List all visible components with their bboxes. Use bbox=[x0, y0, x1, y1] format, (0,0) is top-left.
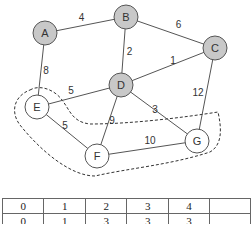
edge-d-c bbox=[121, 48, 215, 85]
graph-diagram: 4682153129510 ABCDEFG bbox=[0, 0, 251, 195]
table-cell bbox=[210, 199, 251, 214]
table-cell: 0 bbox=[3, 214, 44, 225]
edge-weight-label: 8 bbox=[43, 65, 49, 76]
table-cell: 3 bbox=[127, 199, 168, 214]
node-g: G bbox=[185, 129, 209, 153]
node-label: A bbox=[41, 27, 49, 39]
node-label: C bbox=[211, 42, 219, 54]
edge-weight-label: 2 bbox=[127, 46, 133, 57]
node-label: G bbox=[193, 135, 202, 147]
edge-weight-label: 12 bbox=[192, 87, 204, 98]
node-e: E bbox=[25, 95, 49, 119]
table-cell bbox=[210, 214, 251, 225]
node-a: A bbox=[33, 21, 57, 45]
node-label: B bbox=[122, 11, 129, 23]
table-cell: 3 bbox=[168, 214, 209, 225]
edge-b-c bbox=[126, 17, 215, 48]
edge-weight-label: 9 bbox=[109, 115, 115, 126]
edge-weight-label: 1 bbox=[170, 55, 176, 66]
edge-d-g bbox=[121, 85, 197, 141]
table-cell: 3 bbox=[127, 214, 168, 225]
edge-weight-label: 5 bbox=[62, 120, 68, 131]
edge-weight-label: 6 bbox=[176, 19, 182, 30]
table-row: 01333 bbox=[3, 214, 251, 225]
edge-weight-label: 4 bbox=[79, 12, 85, 23]
edge-weight-label: 10 bbox=[144, 135, 156, 146]
result-table: 0123401333 bbox=[2, 198, 251, 224]
table-cell: 1 bbox=[44, 199, 85, 214]
node-b: B bbox=[114, 5, 138, 29]
table-cell: 0 bbox=[3, 199, 44, 214]
table-cell: 3 bbox=[85, 214, 126, 225]
table-cell: 2 bbox=[85, 199, 126, 214]
node-label: F bbox=[94, 150, 101, 162]
node-label: E bbox=[33, 101, 40, 113]
result-table-container: 0123401333 bbox=[2, 198, 251, 224]
node-d: D bbox=[109, 73, 133, 97]
node-f: F bbox=[85, 144, 109, 168]
table-row: 01234 bbox=[3, 199, 251, 214]
table-cell: 4 bbox=[168, 199, 209, 214]
table-cell: 1 bbox=[44, 214, 85, 225]
node-label: D bbox=[117, 79, 125, 91]
edge-weight-label: 5 bbox=[68, 85, 74, 96]
node-c: C bbox=[203, 36, 227, 60]
edge-weight-label: 3 bbox=[152, 104, 158, 115]
edge-e-d bbox=[37, 85, 121, 107]
